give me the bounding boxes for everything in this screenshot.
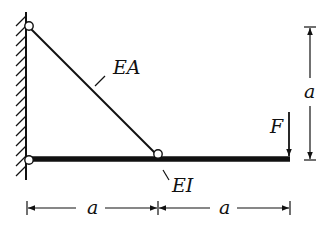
structure-diagram: EA EI F a a a [0, 0, 335, 225]
dim-vertical-label: a [304, 80, 315, 102]
hinge-mid [154, 150, 162, 158]
hinge-bottom [25, 156, 33, 164]
force-label: F [269, 115, 284, 137]
bar-ea [29, 27, 157, 155]
dimension-horizontal [27, 201, 290, 215]
fixed-wall [16, 12, 26, 180]
ei-label: EI [171, 174, 194, 196]
ea-label: EA [112, 56, 141, 78]
dim-left-label: a [87, 196, 98, 218]
dim-right-label: a [219, 196, 230, 218]
ei-leader [163, 170, 169, 180]
ea-leader [95, 76, 105, 86]
hinge-top [25, 22, 33, 30]
